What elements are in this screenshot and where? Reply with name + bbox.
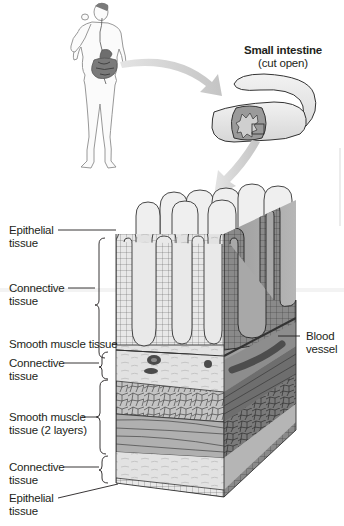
label-epithelial-tissue-bottom: Epithelial tissue bbox=[9, 492, 54, 518]
label-connective-tissue-3: Connective tissue bbox=[9, 461, 65, 487]
label-smooth-muscle-tissue-1: Smooth muscle tissue bbox=[9, 338, 118, 351]
label-connective-tissue-1: Connective tissue bbox=[9, 282, 65, 308]
inset-subtitle: (cut open) bbox=[238, 57, 328, 70]
inset-title-block: Small intestine (cut open) bbox=[238, 44, 328, 70]
label-blood-vessel: Blood vessel bbox=[306, 330, 337, 356]
label-smooth-muscle-tissue-2-layers: Smooth muscle tissue (2 layers) bbox=[9, 411, 87, 437]
intestine-illustration bbox=[212, 74, 316, 142]
inset-title: Small intestine bbox=[238, 44, 328, 57]
label-connective-tissue-2: Connective tissue bbox=[9, 357, 65, 383]
label-epithelial-tissue-top: Epithelial tissue bbox=[9, 224, 54, 250]
arrow-1 bbox=[120, 59, 222, 96]
human-figure bbox=[71, 3, 126, 168]
intestine-diagram-artwork bbox=[0, 0, 344, 526]
